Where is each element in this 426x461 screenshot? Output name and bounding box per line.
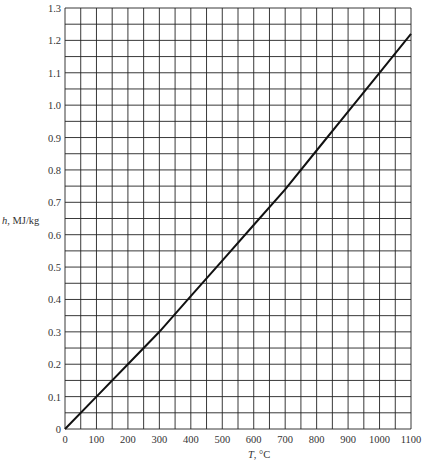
- x-axis-ticks: 010020030040050060070080090010001100: [62, 434, 421, 445]
- y-tick-label: 0.6: [48, 230, 61, 241]
- x-tick-label: 400: [183, 434, 199, 445]
- y-axis-ticks: 00.10.20.30.40.50.60.70.80.91.01.11.21.3: [48, 3, 62, 435]
- x-axis-label: T, °C: [248, 449, 270, 460]
- x-tick-label: 1100: [401, 434, 422, 445]
- x-axis-unit: , °C: [254, 449, 270, 460]
- x-tick-label: 800: [309, 434, 325, 445]
- enthalpy-chart: 00.10.20.30.40.50.60.70.80.91.01.11.21.3…: [0, 0, 426, 461]
- x-tick-label: 0: [62, 434, 67, 445]
- y-tick-label: 0.2: [48, 359, 61, 370]
- x-tick-label: 500: [214, 434, 230, 445]
- x-tick-label: 300: [151, 434, 167, 445]
- x-tick-label: 600: [246, 434, 262, 445]
- y-tick-label: 0: [56, 424, 61, 435]
- y-tick-label: 0.3: [48, 327, 61, 338]
- y-tick-label: 0.9: [48, 133, 61, 144]
- x-tick-label: 100: [89, 434, 105, 445]
- y-tick-label: 0.1: [48, 392, 61, 403]
- grid: [65, 8, 411, 429]
- y-axis-label: h, MJ/kg: [2, 215, 40, 226]
- y-tick-label: 1.1: [48, 68, 61, 79]
- x-tick-label: 700: [277, 434, 293, 445]
- y-tick-label: 0.7: [48, 197, 61, 208]
- y-tick-label: 0.8: [48, 165, 61, 176]
- y-axis-unit: , MJ/kg: [7, 215, 40, 226]
- y-tick-label: 1.3: [48, 3, 61, 14]
- x-tick-label: 200: [120, 434, 136, 445]
- y-tick-label: 0.4: [48, 294, 62, 305]
- y-tick-label: 1.0: [48, 100, 61, 111]
- x-tick-label: 1000: [369, 434, 390, 445]
- x-tick-label: 900: [340, 434, 356, 445]
- y-tick-label: 1.2: [48, 35, 61, 46]
- y-tick-label: 0.5: [48, 262, 61, 273]
